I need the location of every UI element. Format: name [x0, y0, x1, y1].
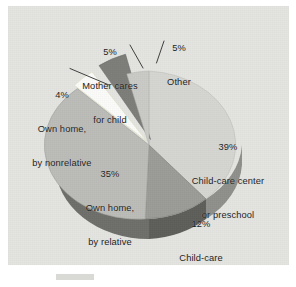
label-description-line2: by nonrelative	[14, 158, 110, 169]
chart-panel: 39% Child-care center or preschool 12% C…	[8, 6, 289, 265]
figure-container: 39% Child-care center or preschool 12% C…	[0, 0, 296, 287]
label-percent: 12%	[160, 219, 242, 230]
label-percent: 5%	[64, 47, 156, 58]
label-description-line1: Other	[156, 77, 202, 88]
label-description-line2: for child	[64, 115, 156, 126]
label-description-line1: Own home,	[62, 203, 158, 214]
label-child-care-home: 12% Child-care home	[160, 196, 242, 265]
label-percent: 5%	[156, 43, 202, 54]
label-description-line1: Child-care	[160, 253, 242, 264]
footer-scan-mark	[56, 274, 94, 280]
label-other: 5% Other	[156, 20, 202, 111]
label-percent: 39%	[176, 142, 280, 153]
label-mother-cares-for-child: 5% Mother cares for child	[64, 24, 156, 149]
label-description-line2: by relative	[62, 237, 158, 248]
label-description-line1: Child-care center	[176, 176, 280, 187]
label-description-line1: Mother cares	[64, 81, 156, 92]
